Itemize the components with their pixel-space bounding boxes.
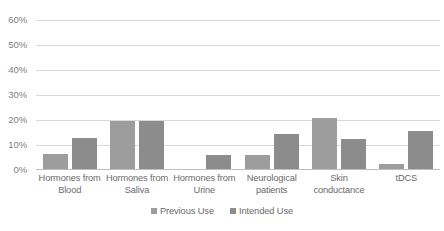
y-axis-tick-label: 50% — [8, 40, 27, 50]
bar-previous-use — [110, 121, 135, 171]
y-axis-labels: 0%10%20%30%40%50%60% — [0, 20, 32, 170]
category-label: Hormones from Blood — [36, 172, 103, 202]
intended-use-swatch-icon — [230, 208, 236, 214]
bar-intended-use — [274, 134, 299, 170]
category-label: Neurological patients — [238, 172, 305, 202]
category-label: Skin conductance — [305, 172, 372, 202]
bar-group — [36, 20, 103, 170]
y-axis-tick-label: 60% — [8, 15, 27, 25]
legend-label: Previous Use — [160, 206, 214, 216]
bar-intended-use — [408, 131, 433, 170]
bar-group — [103, 20, 170, 170]
bar-intended-use — [206, 155, 231, 170]
bar-group — [373, 20, 440, 170]
bar-previous-use — [245, 155, 270, 170]
y-axis-tick-label: 0% — [13, 165, 27, 175]
bar-chart: 0%10%20%30%40%50%60% Hormones from Blood… — [0, 0, 444, 231]
category-label: Hormones from Saliva — [103, 172, 170, 202]
category-label: Hormones from Urine — [171, 172, 238, 202]
bar-group — [171, 20, 238, 170]
x-axis-line — [36, 169, 440, 170]
bar-intended-use — [341, 139, 366, 170]
y-axis-tick-label: 30% — [8, 90, 27, 100]
category-axis-labels: Hormones from BloodHormones from SalivaH… — [36, 172, 440, 202]
chart-legend: Previous UseIntended Use — [0, 206, 444, 216]
bar-groups — [36, 20, 440, 170]
legend-item[interactable]: Intended Use — [230, 206, 293, 216]
legend-item[interactable]: Previous Use — [151, 206, 214, 216]
bar-previous-use — [312, 118, 337, 171]
category-label: tDCS — [373, 172, 440, 202]
bar-previous-use — [43, 154, 68, 170]
plot-area — [36, 20, 440, 170]
previous-use-swatch-icon — [151, 208, 157, 214]
legend-label: Intended Use — [239, 206, 293, 216]
y-axis-tick-label: 10% — [8, 140, 27, 150]
bar-intended-use — [139, 121, 164, 171]
bar-group — [238, 20, 305, 170]
y-axis-tick-label: 20% — [8, 115, 27, 125]
y-axis-tick-label: 40% — [8, 65, 27, 75]
bar-group — [305, 20, 372, 170]
bar-intended-use — [72, 138, 97, 171]
